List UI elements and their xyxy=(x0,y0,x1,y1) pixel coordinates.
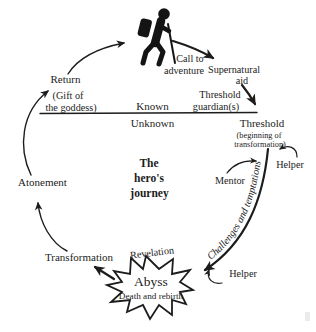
call-to-adventure-line2: adventure xyxy=(164,65,205,76)
page-artifact xyxy=(305,312,310,321)
threshold-guardian-line1: Threshold xyxy=(199,89,240,100)
call-to-adventure-line1: Call to xyxy=(176,53,203,64)
mentor-label: Mentor xyxy=(215,175,246,186)
stage-transformation-label: Transformation xyxy=(45,251,114,263)
threshold-guardian-line2: guardian(s) xyxy=(193,101,239,113)
stage-abyss-label: Abyss xyxy=(134,274,168,289)
abyss-sub-label: Death and rebirth xyxy=(119,291,184,301)
threshold-sub-line2: transformation) xyxy=(234,140,286,149)
diagram-title-line1: The xyxy=(139,157,158,169)
gift-of-goddess-line2: the goddess) xyxy=(45,102,96,114)
diagram-title-line3: journey xyxy=(129,187,169,200)
arrow-transformation-to-atonement xyxy=(38,203,67,251)
stage-return-label: Return xyxy=(51,73,81,85)
arrow-return-to-hero xyxy=(68,43,124,74)
supernatural-aid-line2: aid xyxy=(236,75,248,86)
hero-journey-diagram: Return (Gift of the goddess) Known Unkno… xyxy=(0,0,316,332)
helper-bottom-label: Helper xyxy=(229,268,257,279)
stage-revelation-label: Revelation xyxy=(129,244,174,260)
hiker-icon xyxy=(137,8,175,64)
threshold-sub-line1: (beginning of xyxy=(237,131,282,140)
stage-atonement-label: Atonement xyxy=(18,176,67,188)
arrow-abyss-to-transformation xyxy=(95,267,114,279)
known-label: Known xyxy=(136,100,169,112)
diagram-canvas: Return (Gift of the goddess) Known Unkno… xyxy=(0,0,316,332)
arrow-aid-to-threshold xyxy=(242,85,255,104)
arrow-atonement-to-return xyxy=(24,91,48,175)
supernatural-aid-line1: Supernatural xyxy=(208,64,260,75)
unknown-label: Unknown xyxy=(131,117,175,129)
diagram-title-line2: hero's xyxy=(134,172,164,184)
gift-of-goddess-line1: (Gift of xyxy=(53,90,84,102)
helper-bottom-pointer-arrow xyxy=(208,270,222,283)
stage-threshold-label: Threshold xyxy=(240,117,285,129)
known-unknown-divider xyxy=(40,113,257,114)
helper-top-label: Helper xyxy=(276,159,304,170)
